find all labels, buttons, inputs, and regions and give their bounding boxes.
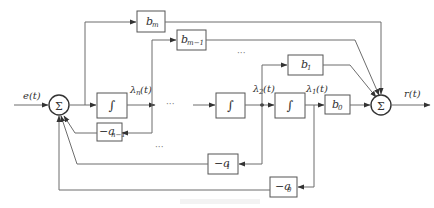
gain-b-m-minus-1: b m−1	[177, 30, 206, 50]
ellipsis-forward: ···	[166, 99, 175, 109]
output-label: r(t)	[404, 88, 421, 99]
gain-minus-a-1: −a 1	[208, 154, 238, 174]
input-signal: e(t)	[14, 90, 48, 105]
figure-caption	[180, 199, 260, 204]
summing-junction-right: Σ	[371, 95, 391, 115]
sigma-icon: Σ	[377, 100, 385, 113]
svg-text:1: 1	[307, 64, 311, 72]
integrator-1: ∫	[275, 93, 305, 118]
sigma-icon: Σ	[55, 100, 63, 113]
svg-text:m−1: m−1	[187, 39, 204, 47]
ellipsis-feedback: ···	[155, 142, 164, 152]
gain-b-1: b 1	[288, 55, 323, 75]
integrator-2: ∫	[216, 93, 245, 118]
integrator-n: ∫	[97, 93, 127, 118]
svg-text:0: 0	[338, 104, 343, 112]
summing-junction-left: Σ	[49, 95, 69, 115]
input-label: e(t)	[23, 90, 41, 101]
state-label-lambda-1: λ 1 (t)	[305, 83, 328, 96]
svg-text:0: 0	[287, 186, 292, 194]
svg-text:n−1: n−1	[111, 131, 126, 139]
state-label-lambda-2: λ 2 (t)	[252, 83, 275, 96]
gain-b-0: b 0	[325, 95, 350, 114]
output-signal: r(t)	[391, 88, 430, 105]
svg-text:1: 1	[226, 163, 230, 171]
gain-minus-a-0: −a 0	[270, 177, 297, 197]
block-diagram: e(t) Σ b m ∫ λ n (t) b m−1 ··· ··· ···	[0, 0, 434, 208]
svg-text:(t): (t)	[316, 83, 328, 94]
svg-text:(t): (t)	[140, 84, 152, 95]
svg-text:(t): (t)	[263, 83, 275, 94]
state-label-lambda-n: λ n (t)	[129, 84, 152, 97]
gain-b-m: b m	[137, 11, 165, 32]
svg-text:m: m	[152, 21, 159, 29]
integral-icon: ∫	[109, 98, 116, 113]
ellipsis-top: ···	[237, 48, 246, 58]
gain-minus-a-n-minus-1: −a n−1	[97, 123, 126, 141]
integral-icon: ∫	[287, 98, 294, 113]
integral-icon: ∫	[227, 98, 234, 113]
